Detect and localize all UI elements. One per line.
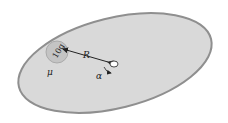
friction-label: μ: [47, 67, 53, 77]
turntable-diagram: 10g R μ α: [0, 0, 228, 123]
pivot-icon: [110, 61, 118, 67]
radius-label: R: [82, 50, 90, 60]
angular-accel-label: α: [96, 71, 102, 81]
